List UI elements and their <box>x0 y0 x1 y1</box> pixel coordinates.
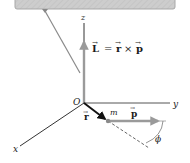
angle-phi-label: ϕ <box>155 134 161 144</box>
mass-label: m <box>110 108 118 117</box>
z-axis-label: z <box>80 13 86 22</box>
origin-label: O <box>73 97 81 107</box>
x-axis <box>20 103 84 146</box>
svg-text:×: × <box>124 43 132 54</box>
r-vector-label: r → <box>83 108 89 122</box>
p-vector-label: p → <box>130 104 137 119</box>
conical-pendulum-diagram: z L → = r → × p → y x O ϕ r → m p → <box>0 0 190 163</box>
ceiling-support <box>15 0 175 13</box>
pendulum-string <box>45 11 80 73</box>
svg-text:→: → <box>92 39 98 47</box>
equation-L-equals-r-cross-p: L → = r → × p → <box>92 39 143 54</box>
svg-text:→: → <box>130 104 135 111</box>
y-axis-label: y <box>172 99 179 109</box>
x-axis-label: x <box>13 144 18 154</box>
mass-particle <box>106 119 110 123</box>
svg-text:→: → <box>83 108 88 115</box>
svg-text:→: → <box>115 39 121 47</box>
svg-text:→: → <box>135 39 141 47</box>
svg-text:=: = <box>104 43 112 54</box>
dashed-radial-line <box>108 121 149 148</box>
